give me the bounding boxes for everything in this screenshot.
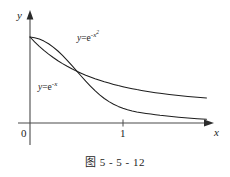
coordinate-plot [0,0,230,150]
curve-gaussian [30,37,207,119]
x-axis-label: x [214,127,219,138]
exponential-label-base: =e [42,82,52,92]
curve-label-exponential: y=e-x [38,83,57,93]
arrow-right-icon [204,119,214,126]
origin-label: 0 [21,128,27,139]
curve-label-gaussian: y=e-x2 [77,32,99,44]
exponential-exponent-var: x [54,80,57,88]
x-tick-label-1: 1 [120,128,126,139]
plot-area [0,0,230,150]
figure-caption: 图 5 - 5 - 12 [0,153,230,169]
figure-container: y x 0 1 y=e-x2 y=e-x 图 5 - 5 - 12 [0,0,230,177]
arrow-up-icon [27,10,34,20]
gaussian-exponent-power: 2 [96,29,99,35]
gaussian-label-base: =e [81,33,91,43]
y-axis-label: y [17,10,22,21]
